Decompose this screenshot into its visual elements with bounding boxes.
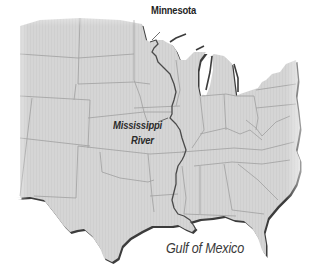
fade-right — [286, 0, 316, 272]
gulf-of-mexico-label: Gulf of Mexico — [166, 240, 244, 256]
river-label-line2: River — [113, 133, 162, 148]
river-label-line1: Mississippi — [113, 118, 162, 133]
mississippi-river-label: Mississippi River — [113, 118, 162, 148]
minnesota-label: Minnesota — [151, 4, 196, 16]
fade-left — [0, 0, 28, 272]
minnesota-leader-line — [152, 32, 160, 40]
